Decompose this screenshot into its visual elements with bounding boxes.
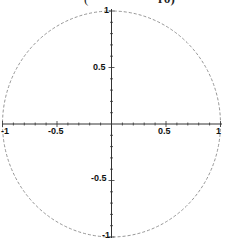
x-tick-label: 1 xyxy=(216,126,221,136)
y-tick-label: 1 xyxy=(104,5,109,15)
y-tick-label: -1 xyxy=(102,230,110,239)
x-tick-label: -1 xyxy=(1,126,9,136)
x-tick-label: 0.5 xyxy=(158,126,171,136)
y-tick-label: 0.5 xyxy=(93,62,106,72)
y-tick-label: -0.5 xyxy=(91,173,107,183)
x-tick-label: -0.5 xyxy=(48,126,64,136)
chart-plot-area: -1 -0.5 0.5 1 1 0.5 -0.5 -1 xyxy=(0,0,229,239)
